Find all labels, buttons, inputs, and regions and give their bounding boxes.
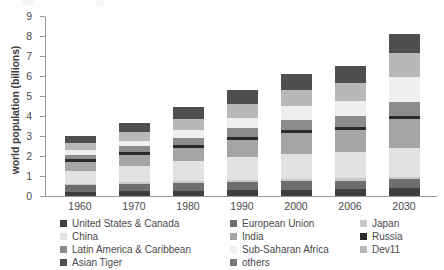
bar-segment	[119, 132, 150, 141]
bar-2030	[389, 34, 420, 196]
legend-swatch-icon	[60, 220, 67, 227]
legend-label: Dev11	[372, 245, 400, 255]
legend-item: United States & Canada	[60, 219, 230, 229]
legend-label: United States & Canada	[72, 219, 179, 229]
legend-swatch-icon	[230, 246, 237, 253]
legend-item: European Union	[230, 219, 360, 229]
legend-item: China	[60, 232, 230, 242]
y-tick: 3	[40, 136, 45, 137]
legend-swatch-icon	[230, 220, 237, 227]
bar-segment	[65, 143, 96, 150]
y-tick-label: 0	[26, 190, 32, 202]
y-tick-label: 7	[26, 50, 32, 62]
bar-segment	[389, 53, 420, 77]
bar-segment	[227, 104, 258, 118]
bar-segment	[173, 130, 204, 138]
legend-label: Sub-Saharan Africa	[242, 245, 329, 255]
bar-segment	[119, 155, 150, 166]
bar-segment	[281, 190, 312, 196]
bar-segment	[389, 119, 420, 148]
bar-segment	[389, 77, 420, 102]
bar-segment	[335, 181, 366, 190]
y-tick-label: 5	[26, 90, 32, 102]
bar-segment	[227, 128, 258, 137]
legend-swatch-icon	[60, 246, 67, 253]
legend-swatch-icon	[230, 233, 237, 240]
y-tick: 7	[40, 56, 45, 57]
bar-segment	[335, 101, 366, 116]
x-tick-label: 1990	[212, 200, 272, 212]
bar-segment	[173, 119, 204, 130]
y-tick: 1	[40, 176, 45, 177]
y-axis-line	[45, 17, 46, 197]
bar-segment	[389, 102, 420, 116]
bar-segment	[389, 188, 420, 196]
bar-segment	[281, 133, 312, 153]
y-tick: 6	[40, 76, 45, 77]
bar-segment	[65, 162, 96, 171]
y-tick-label: 6	[26, 70, 32, 82]
y-tick-label: 8	[26, 30, 32, 42]
bar-segment	[173, 183, 204, 191]
population-stacked-bar-chart: world population (billions) 0123456789 1…	[0, 0, 444, 270]
legend-label: India	[242, 232, 264, 242]
legend-label: Latin America & Caribbean	[72, 245, 191, 255]
legend-item: Asian Tiger	[60, 258, 230, 268]
legend-item: Japan	[360, 219, 440, 229]
legend-label: others	[242, 258, 270, 268]
bar-segment	[65, 192, 96, 196]
bar-segment	[227, 90, 258, 104]
bar-segment	[227, 190, 258, 196]
legend-label: Russia	[372, 232, 403, 242]
chart-legend: United States & CanadaEuropean UnionJapa…	[60, 217, 440, 269]
legend-swatch-icon	[60, 259, 67, 266]
x-tick-label: 2030	[374, 200, 434, 212]
x-tick-label: 1970	[104, 200, 164, 212]
bar-1990	[227, 90, 258, 196]
bar-1960	[65, 136, 96, 196]
legend-swatch-icon	[360, 246, 367, 253]
bar-segment	[173, 138, 204, 145]
bar-segment	[227, 140, 258, 157]
bar-segment	[119, 166, 150, 182]
y-tick-label: 3	[26, 130, 32, 142]
legend-item: Latin America & Caribbean	[60, 245, 230, 255]
bar-segment	[335, 83, 366, 101]
bar-segment	[173, 107, 204, 119]
y-tick: 4	[40, 116, 45, 117]
legend-label: Japan	[372, 219, 399, 229]
bar-1970	[119, 123, 150, 196]
bar-segment	[119, 123, 150, 132]
legend-item: Dev11	[360, 245, 440, 255]
bar-segment	[281, 181, 312, 189]
y-tick: 9	[40, 16, 45, 17]
y-tick: 0	[40, 196, 45, 197]
bar-segment	[119, 184, 150, 191]
y-tick: 5	[40, 96, 45, 97]
bar-segment	[335, 152, 366, 178]
bar-segment	[173, 161, 204, 181]
bar-segment	[281, 106, 312, 119]
bar-segment	[335, 189, 366, 196]
legend-swatch-icon	[230, 259, 237, 266]
bar-segment	[389, 148, 420, 177]
bar-segment	[65, 171, 96, 184]
legend-item: India	[230, 232, 360, 242]
bar-segment	[119, 191, 150, 196]
legend-swatch-icon	[360, 220, 367, 227]
bar-segment	[65, 136, 96, 144]
bar-segment	[389, 179, 420, 188]
legend-label: China	[72, 232, 98, 242]
legend-item: others	[230, 258, 360, 268]
bar-2006	[335, 66, 366, 196]
y-tick-label: 9	[26, 10, 32, 22]
bar-segment	[281, 154, 312, 179]
bar-segment	[173, 148, 204, 162]
legend-item: Sub-Saharan Africa	[230, 245, 360, 255]
bar-segment	[173, 191, 204, 196]
y-axis-title: world population (billions)	[9, 19, 21, 201]
y-tick-label: 1	[26, 170, 32, 182]
x-tick-label: 1980	[158, 200, 218, 212]
x-tick-label: 2000	[266, 200, 326, 212]
x-axis-line	[45, 196, 437, 197]
